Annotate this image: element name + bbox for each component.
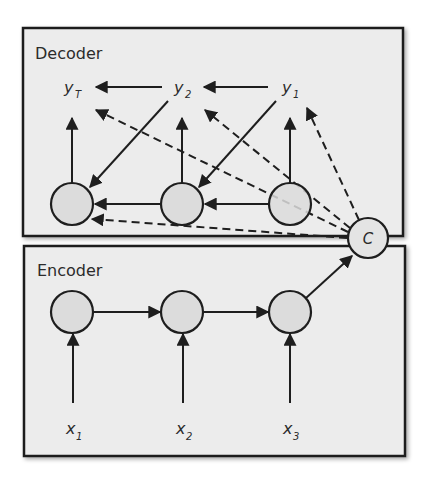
input-label-base: x bbox=[282, 419, 293, 438]
context-vector-node: C bbox=[348, 218, 388, 258]
decoder-node-2 bbox=[161, 183, 203, 225]
context-label: C bbox=[363, 230, 374, 248]
output-label-sub: 1 bbox=[293, 89, 299, 100]
output-label-base: y bbox=[281, 78, 292, 97]
input-label-base: x bbox=[175, 419, 186, 438]
output-label-sub: T bbox=[75, 89, 82, 100]
output-label-sub: 2 bbox=[185, 89, 191, 100]
encoder-node-3 bbox=[269, 291, 311, 333]
output-label-base: y bbox=[173, 78, 184, 97]
decoder-title: Decoder bbox=[35, 44, 103, 63]
input-label-base: x bbox=[65, 419, 76, 438]
encoder-decoder-diagram: Decoder Encoder y T y 2 y 1 bbox=[0, 0, 430, 481]
input-label-sub: 2 bbox=[186, 431, 192, 442]
encoder-title: Encoder bbox=[37, 261, 103, 280]
encoder-node-2 bbox=[161, 291, 203, 333]
input-label-sub: 1 bbox=[76, 431, 82, 442]
encoder-node-1 bbox=[51, 291, 93, 333]
output-label-base: y bbox=[63, 78, 74, 97]
decoder-node-3 bbox=[269, 183, 311, 225]
decoder-node-1 bbox=[51, 183, 93, 225]
encoder-box: Encoder bbox=[24, 246, 405, 456]
input-label-sub: 3 bbox=[293, 431, 299, 442]
